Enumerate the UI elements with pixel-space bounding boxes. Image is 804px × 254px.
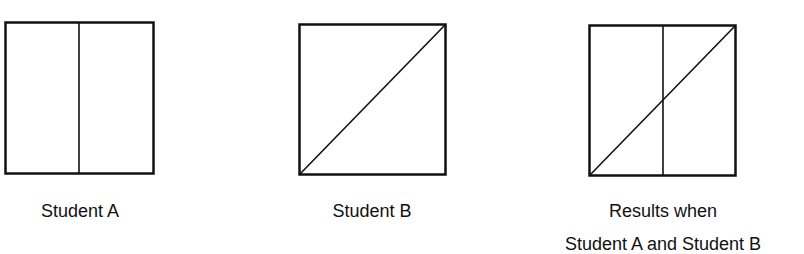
label-results-line1: Results when [609, 201, 717, 222]
square-student-a [6, 22, 154, 174]
label-student-b: Student B [332, 201, 411, 222]
square-results [590, 25, 736, 176]
label-results-line2: Student A and Student B [565, 234, 761, 254]
label-student-a: Student A [41, 201, 119, 222]
square-student-b [300, 25, 446, 175]
